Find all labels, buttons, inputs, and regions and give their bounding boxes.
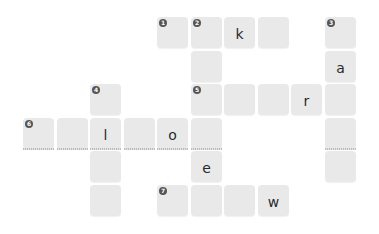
crossword-cell[interactable] — [90, 151, 121, 182]
clue-number-badge: 6 — [25, 120, 33, 128]
crossword-cell[interactable] — [325, 84, 356, 115]
crossword-grid: 12k3a45r6loe7w — [0, 0, 379, 234]
cell-letter: l — [104, 128, 108, 142]
crossword-cell[interactable] — [224, 84, 255, 115]
crossword-cell[interactable]: 7 — [157, 185, 188, 216]
crossword-cell[interactable] — [57, 118, 88, 149]
crossword-cell[interactable] — [325, 151, 356, 182]
crossword-cell[interactable] — [325, 118, 356, 149]
crossword-cell[interactable]: 1 — [157, 17, 188, 48]
crossword-cell[interactable] — [258, 84, 289, 115]
clue-number-badge: 3 — [327, 19, 335, 27]
crossword-cell[interactable]: 4 — [90, 84, 121, 115]
crossword-cell[interactable]: 6 — [23, 118, 54, 149]
crossword-cell[interactable]: r — [291, 84, 322, 115]
crossword-cell[interactable]: k — [224, 17, 255, 48]
crossword-cell[interactable]: 3 — [325, 17, 356, 48]
cell-letter: a — [336, 61, 345, 75]
crossword-cell[interactable]: l — [90, 118, 121, 149]
cell-letter: r — [304, 94, 310, 108]
crossword-cell[interactable]: a — [325, 51, 356, 82]
cell-letter: e — [202, 161, 211, 175]
clue-number-badge: 5 — [193, 86, 201, 94]
crossword-cell[interactable] — [191, 51, 222, 82]
crossword-cell[interactable] — [124, 118, 155, 149]
cell-letter: o — [168, 128, 177, 142]
clue-number-badge: 1 — [159, 19, 167, 27]
clue-number-badge: 7 — [159, 187, 167, 195]
crossword-cell[interactable] — [258, 17, 289, 48]
crossword-cell[interactable]: e — [191, 151, 222, 182]
clue-number-badge: 2 — [193, 19, 201, 27]
cell-letter: w — [268, 195, 279, 209]
crossword-cell[interactable]: w — [258, 185, 289, 216]
crossword-cell[interactable]: 2 — [191, 17, 222, 48]
crossword-cell[interactable] — [90, 185, 121, 216]
crossword-cell[interactable] — [224, 185, 255, 216]
crossword-cell[interactable]: o — [157, 118, 188, 149]
crossword-cell[interactable]: 5 — [191, 84, 222, 115]
clue-number-badge: 4 — [92, 86, 100, 94]
crossword-cell[interactable] — [191, 118, 222, 149]
cell-letter: k — [235, 27, 243, 41]
crossword-cell[interactable] — [191, 185, 222, 216]
